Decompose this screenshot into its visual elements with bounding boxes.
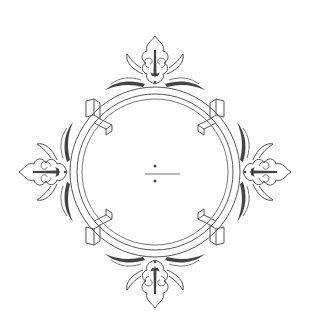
frame-rings: [70, 87, 240, 257]
ornamental-frame: [0, 0, 310, 336]
frame-graphic: [0, 0, 310, 336]
right-ornament: [237, 122, 291, 222]
top-ornament: [105, 36, 205, 90]
bottom-ornament: [105, 254, 205, 308]
left-ornament: [19, 122, 73, 222]
division-symbol-icon: [145, 165, 180, 183]
